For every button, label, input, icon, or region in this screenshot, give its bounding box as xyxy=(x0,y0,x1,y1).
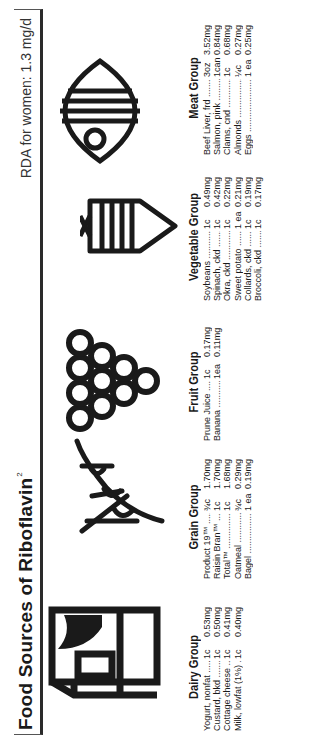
list-item: Salmon, pink1can0.84mg xyxy=(212,21,222,155)
group-title: Dairy Group xyxy=(186,613,201,722)
group-title: Meat Group xyxy=(186,31,201,145)
carrot-icon xyxy=(80,181,180,271)
group-title: Fruit Group xyxy=(186,332,201,432)
list-item: Banana1ea0.11mg xyxy=(212,323,222,441)
list-item: Prune Juice1c0.17mg xyxy=(202,323,212,441)
title-text: Food Sources of Riboflavin xyxy=(15,478,36,730)
title-footnote: 2 xyxy=(15,472,24,477)
list-item: Collards, ckd1c0.19mg xyxy=(243,173,253,301)
wheat-stalk-icon xyxy=(62,431,167,551)
milk-carton-icon xyxy=(42,591,162,709)
dairy-group: Dairy Group Yogurt, nonfat1c0.53mg Custa… xyxy=(186,603,243,731)
meat-group: Meat Group Beef Liver, frd3oz3.52mg Salm… xyxy=(186,21,253,155)
list-item: Soybeans1c0.49mg xyxy=(202,173,212,301)
list-item: Okra, ckd1c0.22mg xyxy=(222,173,232,301)
list-item: Milk, lowfat (1%)1c0.40mg xyxy=(233,603,243,731)
rda-label: RDA for women: 1.3 mg/d xyxy=(18,18,34,178)
grapes-icon xyxy=(60,323,170,433)
list-item: Eggs1 ea0.25mg xyxy=(243,21,253,155)
fish-icon xyxy=(40,51,165,171)
list-item: Raisin Bran™1c1.70mg xyxy=(212,455,222,579)
grain-group: Grain Group Product 19™¾c1.70mg Raisin B… xyxy=(186,455,253,579)
vegetable-group: Vegetable Group Soybeans1c0.49mg Spinach… xyxy=(186,173,263,301)
list-item: Sweet potato1 ea0.21mg xyxy=(233,173,243,301)
list-item: Beef Liver, frd3oz3.52mg xyxy=(202,21,212,155)
riboflavin-sheet: Food Sources of Riboflavin2 RDA for wome… xyxy=(0,0,309,751)
list-item: Custard, bkd1c0.50mg xyxy=(212,603,222,731)
list-item: Clams, cnd1c0.68mg xyxy=(222,21,232,155)
list-item: Almonds¼c0.27mg xyxy=(233,21,243,155)
group-title: Grain Group xyxy=(186,464,201,569)
list-item: Product 19™¾c1.70mg xyxy=(202,455,212,579)
list-item: Spinach, ckd1c0.42mg xyxy=(212,173,222,301)
list-item: Broccoli, ckd1c0.17mg xyxy=(253,173,263,301)
list-item: Yogurt, nonfat1c0.53mg xyxy=(202,603,212,731)
list-item: Cottage cheese1c0.41mg xyxy=(222,603,232,731)
group-title: Vegetable Group xyxy=(186,183,201,292)
page-title: Food Sources of Riboflavin2 xyxy=(15,472,37,730)
fruit-group: Fruit Group Prune Juice1c0.17mg Banana1e… xyxy=(186,323,222,441)
list-item: Total™1c1.68mg xyxy=(222,455,232,579)
list-item: Oatmeal¾c0.29mg xyxy=(233,455,243,579)
header-bar: Food Sources of Riboflavin2 RDA for wome… xyxy=(14,9,43,735)
list-item: Bagel1 ea0.19mg xyxy=(243,455,253,579)
